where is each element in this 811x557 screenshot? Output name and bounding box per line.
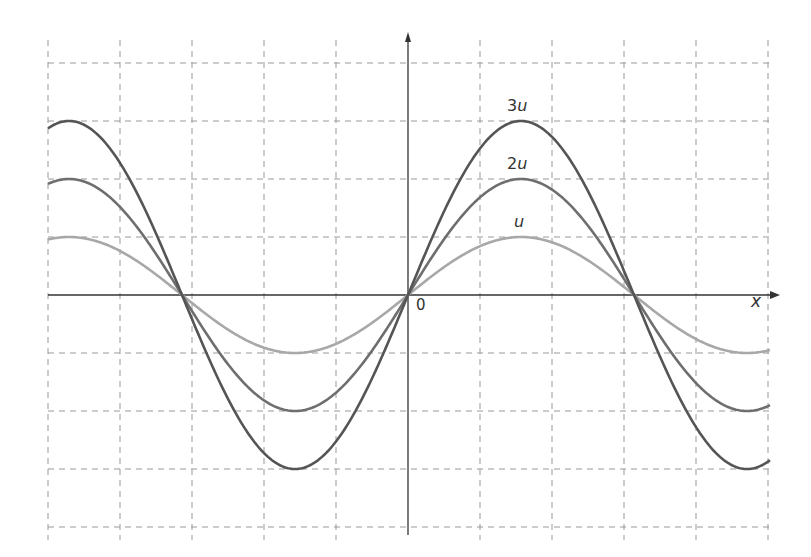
origin-label: 0	[416, 296, 426, 314]
series-label-3u: 3u	[507, 96, 527, 115]
series-label-2u: 2u	[507, 154, 527, 173]
x-axis-label: x	[751, 291, 761, 311]
series-label-u: u	[514, 212, 524, 231]
sine-chart	[0, 0, 811, 557]
